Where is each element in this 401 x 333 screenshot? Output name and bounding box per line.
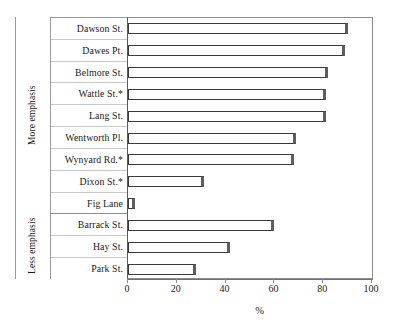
bar bbox=[128, 133, 296, 144]
x-tick-label: 40 bbox=[205, 283, 245, 294]
category-label: Dixon St.* bbox=[80, 176, 123, 187]
bar bbox=[128, 89, 326, 100]
category-label-row: Lang St. bbox=[51, 104, 127, 126]
category-label-row: Dixon St.* bbox=[51, 170, 127, 192]
bar-row bbox=[128, 258, 372, 280]
category-label-row: Belmore St. bbox=[51, 61, 127, 83]
bar-row bbox=[128, 171, 372, 193]
bar-row bbox=[128, 127, 372, 149]
category-label: Belmore St. bbox=[75, 67, 123, 78]
plot-area bbox=[127, 17, 373, 279]
group-label-column: More emphasis Less emphasis bbox=[16, 17, 50, 279]
category-label: Lang St. bbox=[89, 110, 123, 121]
bar bbox=[128, 23, 348, 34]
x-axis-line bbox=[127, 279, 373, 280]
x-tick-label: 60 bbox=[253, 283, 293, 294]
category-label: Dawson St. bbox=[77, 23, 123, 34]
bar-row bbox=[128, 193, 372, 215]
category-label: Wentworth Pl. bbox=[65, 132, 123, 143]
x-axis-title-text: % bbox=[255, 305, 264, 316]
category-label: Wynyard Rd.* bbox=[65, 154, 123, 165]
category-label-row: Dawson St. bbox=[51, 17, 127, 39]
x-tick-label: 100 bbox=[351, 283, 391, 294]
category-label: Dawes Pt. bbox=[82, 45, 123, 56]
bar bbox=[128, 111, 326, 122]
x-tick-label: 20 bbox=[156, 283, 196, 294]
category-label-row: Dawes Pt. bbox=[51, 39, 127, 61]
category-label-row: Wentworth Pl. bbox=[51, 126, 127, 148]
category-label: Wattle St.* bbox=[79, 88, 123, 99]
category-label-row: Wattle St.* bbox=[51, 82, 127, 104]
x-tick-label: 80 bbox=[302, 283, 342, 294]
category-label-row: Wynyard Rd.* bbox=[51, 148, 127, 170]
bar-row bbox=[128, 40, 372, 62]
category-label-row: Fig Lane bbox=[51, 192, 127, 214]
x-axis-title: % bbox=[0, 305, 401, 316]
category-label-column: Dawson St.Dawes Pt.Belmore St.Wattle St.… bbox=[51, 17, 127, 279]
bar-series bbox=[128, 18, 372, 278]
bar bbox=[128, 154, 294, 165]
group-label-more-emphasis: More emphasis bbox=[16, 17, 50, 213]
bar-row bbox=[128, 18, 372, 40]
group-label-less-emphasis: Less emphasis bbox=[16, 213, 50, 279]
bar-row bbox=[128, 214, 372, 236]
bar bbox=[128, 67, 328, 78]
category-label-row: Hay St. bbox=[51, 235, 127, 257]
bar-row bbox=[128, 105, 372, 127]
category-label-row: Park St. bbox=[51, 257, 127, 279]
bar bbox=[128, 45, 345, 56]
bar-row bbox=[128, 62, 372, 84]
bar-chart: More emphasis Less emphasis Dawson St.Da… bbox=[0, 0, 401, 333]
bar bbox=[128, 176, 204, 187]
bar bbox=[128, 198, 135, 209]
bar-row bbox=[128, 236, 372, 258]
category-label: Park St. bbox=[91, 263, 123, 274]
category-label: Barrack St. bbox=[78, 219, 123, 230]
bar-row bbox=[128, 149, 372, 171]
bar bbox=[128, 220, 274, 231]
x-tick-label: 0 bbox=[107, 283, 147, 294]
category-label-row: Barrack St. bbox=[51, 213, 127, 235]
bar bbox=[128, 242, 230, 253]
bar bbox=[128, 264, 196, 275]
category-label: Fig Lane bbox=[87, 198, 123, 209]
bar-row bbox=[128, 83, 372, 105]
category-label: Hay St. bbox=[93, 241, 123, 252]
